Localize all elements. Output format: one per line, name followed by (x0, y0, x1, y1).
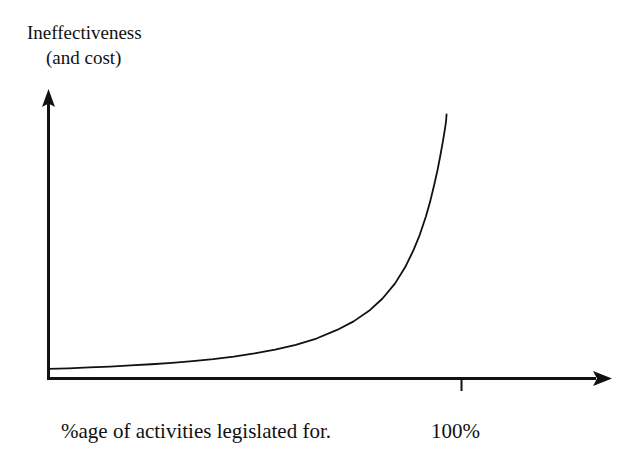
x-axis-label: %age of activities legislated for. (61, 419, 331, 444)
y-axis-label-line-2: (and cost) (46, 47, 121, 69)
chart-figure: Ineffectiveness (and cost) %age of activ… (0, 0, 635, 464)
y-axis-label-line-1: Ineffectiveness (27, 22, 142, 44)
chart-plot-area (0, 0, 635, 464)
ineffectiveness-curve (48, 114, 447, 369)
x-axis-max-tick-label: 100% (431, 419, 480, 444)
